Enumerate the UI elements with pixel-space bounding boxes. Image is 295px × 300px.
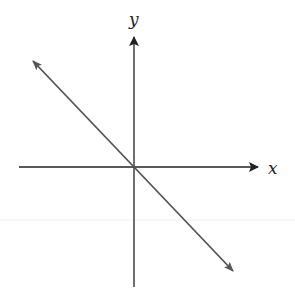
x-axis-label: x (268, 158, 278, 178)
graph-line-upper (33, 61, 134, 167)
coordinate-plane: y x (0, 0, 295, 300)
graph-line (134, 167, 233, 271)
y-axis-label: y (128, 9, 139, 29)
